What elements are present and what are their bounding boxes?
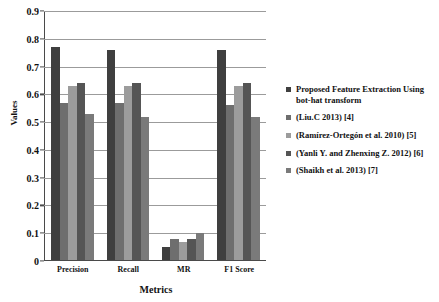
bar — [196, 233, 205, 261]
x-axis-title: Metrics — [45, 284, 267, 295]
bar — [234, 86, 243, 261]
bar-chart: Values 00.10.20.30.40.50.60.70.80.9 Prec… — [0, 0, 439, 302]
x-axis-labels: PrecisionRecallMRF1 Score — [45, 265, 267, 274]
bar-group — [100, 11, 155, 261]
y-tick-label: 0.1 — [27, 228, 40, 239]
bar — [141, 117, 150, 261]
plot-area: 00.10.20.30.40.50.60.70.80.9 — [44, 11, 266, 261]
bar-group — [156, 11, 211, 261]
y-tick-mark — [40, 66, 44, 67]
legend-swatch-icon — [286, 115, 291, 120]
legend-label: Proposed Feature Extraction Using bot-ha… — [296, 84, 436, 105]
legend: Proposed Feature Extraction Using bot-ha… — [286, 84, 436, 183]
y-tick-label: 0.3 — [27, 172, 40, 183]
legend-label: (Shaikh et al. 2013) [7] — [296, 165, 378, 176]
y-tick-mark — [40, 10, 44, 11]
y-tick-mark — [40, 205, 44, 206]
bar — [115, 103, 124, 261]
legend-item: (Yanli Y. and Zhenxing Z. 2012) [6] — [286, 148, 436, 159]
legend-item: Proposed Feature Extraction Using bot-ha… — [286, 84, 436, 105]
bar — [226, 105, 235, 261]
y-tick-label: 0.6 — [27, 89, 40, 100]
y-tick-mark — [40, 233, 44, 234]
legend-label: (Ramírez-Ortegón et al. 2010) [5] — [296, 130, 416, 141]
bar — [243, 83, 252, 261]
x-axis-label: F1 Score — [212, 265, 268, 274]
bar — [85, 114, 94, 261]
y-axis-title: Values — [9, 83, 19, 143]
x-axis-label: MR — [156, 265, 212, 274]
bar-groups — [45, 11, 266, 261]
y-tick-mark — [40, 38, 44, 39]
legend-swatch-icon — [286, 133, 291, 138]
y-tick-mark — [40, 149, 44, 150]
y-tick-label: 0.8 — [27, 33, 40, 44]
y-tick-label: 0.7 — [27, 61, 40, 72]
bar — [60, 103, 69, 261]
bar — [187, 239, 196, 261]
x-axis-label: Precision — [45, 265, 101, 274]
bar — [179, 242, 188, 261]
y-tick-mark — [40, 177, 44, 178]
legend-swatch-icon — [286, 168, 291, 173]
y-tick-label: 0.4 — [27, 144, 40, 155]
bar — [170, 239, 179, 261]
y-tick-mark — [40, 94, 44, 95]
legend-swatch-icon — [286, 151, 291, 156]
legend-item: (Shaikh et al. 2013) [7] — [286, 165, 436, 176]
bar-group — [45, 11, 100, 261]
legend-label: (Yanli Y. and Zhenxing Z. 2012) [6] — [296, 148, 423, 159]
bar — [217, 50, 226, 261]
bar-group — [211, 11, 266, 261]
bar — [124, 86, 133, 261]
bar — [68, 86, 77, 261]
bar — [251, 117, 260, 261]
y-tick-label: 0.2 — [27, 200, 40, 211]
legend-item: (Ramírez-Ortegón et al. 2010) [5] — [286, 130, 436, 141]
bar — [77, 83, 86, 261]
y-tick-label: 0.5 — [27, 117, 40, 128]
bar — [51, 47, 60, 261]
x-axis-line — [44, 260, 266, 261]
y-tick-label: 0 — [34, 256, 39, 267]
y-tick-label: 0.9 — [27, 6, 40, 17]
legend-item: (Liu.C 2013) [4] — [286, 112, 436, 123]
legend-swatch-icon — [286, 87, 291, 92]
bar — [107, 50, 116, 261]
bar — [132, 83, 141, 261]
legend-label: (Liu.C 2013) [4] — [296, 112, 354, 123]
x-axis-label: Recall — [101, 265, 157, 274]
y-tick-mark — [40, 122, 44, 123]
